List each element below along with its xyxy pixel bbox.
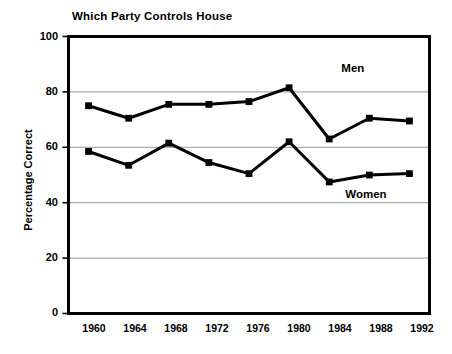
data-point-men-1984 (326, 136, 333, 143)
data-point-women-1984 (326, 179, 333, 186)
data-series-layer (85, 84, 413, 185)
data-point-women-1980 (286, 138, 293, 145)
data-point-men-1980 (286, 84, 293, 91)
data-point-men-1968 (165, 101, 172, 108)
data-point-men-1972 (205, 101, 212, 108)
data-point-men-1976 (246, 98, 253, 105)
data-point-women-1972 (205, 159, 212, 166)
data-point-women-1988 (366, 172, 373, 179)
chart-figure: Which Party Controls House Percentage Co… (0, 0, 452, 354)
plot-area (0, 0, 452, 354)
data-point-men-1992 (406, 118, 413, 125)
data-point-men-1960 (85, 102, 92, 109)
data-point-women-1992 (406, 170, 413, 177)
data-point-men-1988 (366, 115, 373, 122)
data-point-women-1960 (85, 148, 92, 155)
data-point-women-1968 (165, 140, 172, 147)
data-point-women-1976 (246, 170, 253, 177)
data-point-men-1964 (125, 115, 132, 122)
data-point-women-1964 (125, 162, 132, 169)
